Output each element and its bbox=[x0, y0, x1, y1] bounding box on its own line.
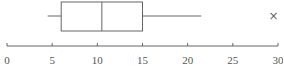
box-plot-chart: × 051015202530 bbox=[0, 0, 283, 69]
tick-label: 5 bbox=[49, 54, 55, 66]
tick-label: 15 bbox=[137, 54, 149, 66]
x-axis: 051015202530 bbox=[4, 43, 283, 66]
tick-label: 0 bbox=[4, 54, 10, 66]
box-plot: × bbox=[48, 2, 279, 31]
tick-label: 20 bbox=[182, 54, 194, 66]
outlier-marker: × bbox=[268, 9, 278, 23]
tick-label: 30 bbox=[273, 54, 284, 66]
tick-label: 10 bbox=[92, 54, 104, 66]
tick-label: 25 bbox=[227, 54, 239, 66]
